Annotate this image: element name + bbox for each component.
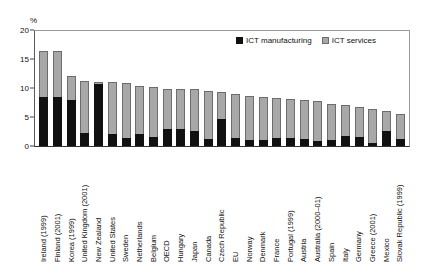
bar-segment-ict-services[interactable] (245, 96, 254, 140)
stacked-bar[interactable] (355, 107, 364, 146)
stacked-bar[interactable] (53, 51, 62, 146)
bar-column[interactable] (311, 30, 325, 146)
bar-column[interactable] (243, 30, 257, 146)
bar-segment-ict-manufacturing[interactable] (272, 138, 281, 146)
stacked-bar[interactable] (327, 104, 336, 146)
bar-column[interactable] (297, 30, 311, 146)
bar-segment-ict-manufacturing[interactable] (341, 136, 350, 146)
bar-column[interactable] (174, 30, 188, 146)
bar-column[interactable] (147, 30, 161, 146)
bar-column[interactable] (51, 30, 65, 146)
stacked-bar[interactable] (176, 89, 185, 146)
bar-column[interactable] (256, 30, 270, 146)
bar-segment-ict-manufacturing[interactable] (368, 143, 377, 146)
bar-column[interactable] (188, 30, 202, 146)
bar-segment-ict-services[interactable] (341, 105, 350, 136)
stacked-bar[interactable] (80, 81, 89, 146)
bar-segment-ict-manufacturing[interactable] (149, 137, 158, 146)
stacked-bar[interactable] (217, 92, 226, 146)
stacked-bar[interactable] (190, 89, 199, 146)
bar-segment-ict-manufacturing[interactable] (176, 129, 185, 146)
bar-segment-ict-manufacturing[interactable] (259, 140, 268, 146)
bar-segment-ict-manufacturing[interactable] (94, 84, 103, 146)
bar-segment-ict-services[interactable] (176, 89, 185, 128)
stacked-bar[interactable] (396, 114, 405, 146)
bar-segment-ict-manufacturing[interactable] (231, 138, 240, 146)
bar-segment-ict-services[interactable] (300, 100, 309, 139)
bar-column[interactable] (380, 30, 394, 146)
bar-column[interactable] (338, 30, 352, 146)
bar-segment-ict-services[interactable] (286, 99, 295, 138)
bar-segment-ict-manufacturing[interactable] (108, 134, 117, 146)
bar-segment-ict-manufacturing[interactable] (135, 134, 144, 146)
stacked-bar[interactable] (135, 86, 144, 146)
bar-segment-ict-manufacturing[interactable] (245, 140, 254, 146)
stacked-bar[interactable] (94, 82, 103, 146)
bar-column[interactable] (284, 30, 298, 146)
stacked-bar[interactable] (382, 111, 391, 146)
stacked-bar[interactable] (368, 109, 377, 146)
bar-segment-ict-services[interactable] (122, 83, 131, 138)
bar-column[interactable] (78, 30, 92, 146)
bar-segment-ict-manufacturing[interactable] (53, 97, 62, 146)
bar-column[interactable] (160, 30, 174, 146)
stacked-bar[interactable] (259, 97, 268, 146)
bar-segment-ict-manufacturing[interactable] (217, 119, 226, 146)
bar-segment-ict-manufacturing[interactable] (313, 141, 322, 146)
bar-column[interactable] (37, 30, 51, 146)
bar-segment-ict-services[interactable] (231, 94, 240, 138)
bar-segment-ict-services[interactable] (204, 91, 213, 139)
bar-segment-ict-services[interactable] (108, 82, 117, 134)
stacked-bar[interactable] (341, 105, 350, 146)
bar-column[interactable] (393, 30, 407, 146)
bar-segment-ict-manufacturing[interactable] (163, 129, 172, 146)
bar-segment-ict-services[interactable] (163, 89, 172, 130)
bar-segment-ict-services[interactable] (39, 51, 48, 97)
bar-column[interactable] (201, 30, 215, 146)
stacked-bar[interactable] (122, 83, 131, 146)
bar-segment-ict-services[interactable] (259, 97, 268, 140)
bar-segment-ict-services[interactable] (80, 81, 89, 133)
bar-segment-ict-services[interactable] (67, 76, 76, 99)
bar-segment-ict-services[interactable] (217, 92, 226, 119)
bar-segment-ict-manufacturing[interactable] (67, 100, 76, 146)
bar-column[interactable] (229, 30, 243, 146)
stacked-bar[interactable] (67, 76, 76, 146)
bar-segment-ict-manufacturing[interactable] (382, 131, 391, 146)
bar-segment-ict-services[interactable] (313, 101, 322, 140)
bar-segment-ict-manufacturing[interactable] (39, 97, 48, 146)
bar-segment-ict-services[interactable] (135, 86, 144, 134)
bar-segment-ict-services[interactable] (327, 104, 336, 141)
bar-column[interactable] (133, 30, 147, 146)
stacked-bar[interactable] (286, 99, 295, 146)
stacked-bar[interactable] (313, 101, 322, 146)
bar-column[interactable] (92, 30, 106, 146)
bar-column[interactable] (215, 30, 229, 146)
stacked-bar[interactable] (204, 91, 213, 146)
bar-segment-ict-manufacturing[interactable] (396, 139, 405, 146)
bar-segment-ict-services[interactable] (396, 114, 405, 140)
stacked-bar[interactable] (231, 94, 240, 146)
stacked-bar[interactable] (163, 89, 172, 146)
bar-segment-ict-manufacturing[interactable] (190, 131, 199, 146)
bar-segment-ict-manufacturing[interactable] (355, 137, 364, 146)
bar-column[interactable] (106, 30, 120, 146)
stacked-bar[interactable] (149, 87, 158, 146)
bar-column[interactable] (325, 30, 339, 146)
stacked-bar[interactable] (108, 82, 117, 146)
bar-segment-ict-services[interactable] (53, 51, 62, 97)
bar-segment-ict-services[interactable] (149, 87, 158, 137)
stacked-bar[interactable] (39, 51, 48, 146)
bar-column[interactable] (366, 30, 380, 146)
bar-segment-ict-manufacturing[interactable] (204, 139, 213, 146)
bar-segment-ict-manufacturing[interactable] (122, 138, 131, 146)
bar-segment-ict-manufacturing[interactable] (286, 138, 295, 146)
bar-segment-ict-manufacturing[interactable] (300, 139, 309, 146)
stacked-bar[interactable] (300, 100, 309, 146)
stacked-bar[interactable] (245, 96, 254, 146)
bar-segment-ict-services[interactable] (272, 98, 281, 139)
bar-segment-ict-manufacturing[interactable] (327, 140, 336, 146)
bar-segment-ict-services[interactable] (368, 109, 377, 143)
bar-segment-ict-services[interactable] (382, 111, 391, 131)
bar-segment-ict-services[interactable] (355, 107, 364, 137)
